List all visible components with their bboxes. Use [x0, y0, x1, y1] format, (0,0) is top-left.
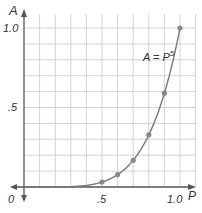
y-axis-label: A: [8, 3, 18, 18]
y-axis-arrow-up-icon: [21, 9, 27, 17]
data-point: [162, 91, 167, 96]
y-tick-half: .5: [8, 101, 18, 113]
axes: [10, 9, 196, 202]
origin-label: 0: [8, 193, 15, 205]
data-point: [146, 132, 151, 137]
grid-lines: [24, 14, 196, 187]
x-tick-one: 1.0: [167, 193, 183, 205]
data-point: [99, 179, 104, 184]
equation-label: A = P5: [142, 49, 175, 63]
x-axis-label: P: [188, 189, 196, 203]
x-tick-half: .5: [97, 193, 107, 205]
data-point: [131, 158, 136, 163]
y-axis-arrow-down-icon: [21, 195, 27, 202]
data-point: [115, 172, 120, 177]
power-curve-chart: A P 0 .5 1.0 .5 1.0 A = P5: [0, 0, 202, 213]
x-axis-arrow-left-icon: [10, 184, 17, 190]
y-tick-one: 1.0: [3, 22, 19, 34]
data-point: [177, 25, 182, 30]
